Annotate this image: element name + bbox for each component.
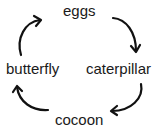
- life-cycle-diagram: eggs caterpillar cocoon butterfly: [0, 0, 153, 133]
- stage-label-caterpillar: caterpillar: [86, 60, 151, 77]
- stage-label-cocoon: cocoon: [55, 111, 103, 128]
- arrow-caterpillar-to-cocoon-icon: [111, 84, 141, 115]
- arrow-butterfly-to-eggs-icon: [20, 16, 41, 55]
- stage-label-butterfly: butterfly: [6, 60, 59, 77]
- arrow-cocoon-to-butterfly-icon: [13, 86, 48, 110]
- arrow-eggs-to-caterpillar-icon: [113, 18, 140, 52]
- stage-label-eggs: eggs: [63, 2, 96, 19]
